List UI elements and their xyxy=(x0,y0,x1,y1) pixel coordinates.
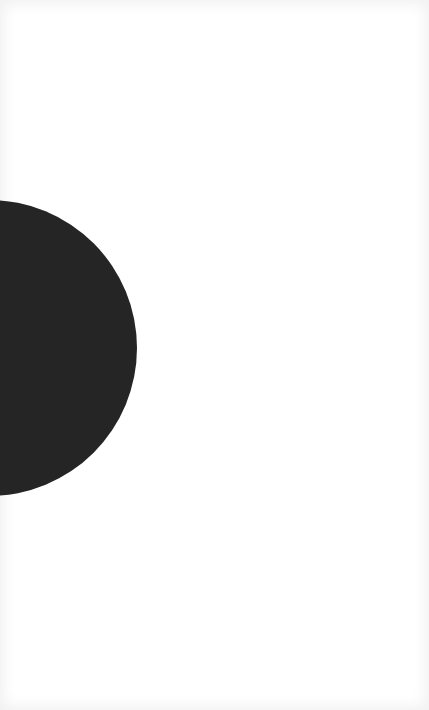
dark-half-circle xyxy=(0,200,137,496)
blank-canvas xyxy=(0,0,429,710)
